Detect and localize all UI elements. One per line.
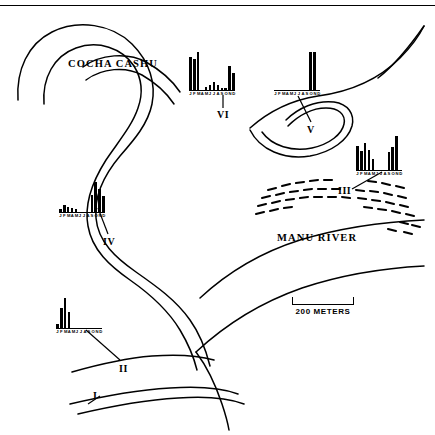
axis-tick-label: M — [67, 213, 70, 218]
axis-tick-label: A — [84, 329, 87, 334]
axis-tick-label: J — [83, 213, 86, 218]
axis-tick-label: S — [88, 329, 91, 334]
axis-tick-label: J — [376, 171, 379, 176]
phenology-chart-iv: JFMAMJJASOND — [59, 182, 105, 218]
bar — [313, 52, 316, 90]
bar — [63, 205, 66, 212]
axis-tick-label: J — [189, 91, 192, 96]
axis-tick-label: M — [205, 91, 208, 96]
axis-tick-label: J — [56, 329, 59, 334]
axis-tick-label: O — [224, 91, 227, 96]
bar — [221, 88, 224, 90]
bar — [98, 189, 101, 212]
axis-tick-label: D — [232, 91, 235, 96]
axis-tick-label: J — [209, 91, 212, 96]
chart-vi-plot — [189, 52, 235, 91]
axis-tick-label: S — [91, 213, 94, 218]
scale-bar-rule — [292, 297, 354, 305]
chart-vi-axis-labels: JFMAMJJASOND — [189, 91, 235, 96]
axis-tick-label: N — [98, 213, 101, 218]
chart-iv-plot — [59, 182, 105, 213]
axis-tick-label: A — [302, 91, 305, 96]
axis-tick-label: N — [95, 329, 98, 334]
chart-v-axis-labels: JFMAMJJASOND — [274, 91, 320, 96]
leader-line-ii — [86, 330, 120, 360]
axis-tick-label: A — [217, 91, 220, 96]
axis-tick-label: F — [278, 91, 281, 96]
axis-tick-label: M — [197, 91, 200, 96]
cocha-cashu-neck-inner — [86, 69, 174, 104]
axis-tick-label: M — [364, 171, 367, 176]
phenology-chart-v: JFMAMJJASOND — [274, 52, 320, 96]
bar — [217, 85, 220, 90]
bar — [56, 324, 59, 328]
site-label-iv: IV — [103, 236, 115, 247]
bar — [102, 196, 105, 213]
upper-channel-lagoon-inner — [262, 108, 344, 149]
bar — [309, 52, 312, 90]
chart-iv-axis-labels: JFMAMJJASOND — [59, 213, 105, 218]
axis-tick-label: A — [71, 213, 74, 218]
bar — [197, 52, 200, 90]
axis-tick-label: A — [384, 171, 387, 176]
bar — [224, 88, 227, 90]
site-label-v: V — [307, 124, 315, 135]
axis-tick-label: M — [64, 329, 67, 334]
scale-bar: 200 METERS — [292, 297, 354, 316]
bar — [213, 82, 216, 90]
map-label-cocha-cashu: COCHA CASHU — [68, 58, 158, 69]
bar — [391, 147, 394, 170]
cocha-cashu-lake-outline — [18, 25, 210, 366]
bar — [372, 159, 375, 170]
bar — [60, 308, 63, 328]
axis-tick-label: D — [317, 91, 320, 96]
bar — [64, 298, 67, 328]
chart-v-plot — [274, 52, 320, 91]
bar — [71, 208, 74, 212]
axis-tick-label: J — [298, 91, 301, 96]
map-label-manu-river: MANU RIVER — [277, 232, 357, 243]
axis-tick-label: A — [368, 171, 371, 176]
phenology-chart-vi: JFMAMJJASOND — [189, 52, 235, 96]
phenology-chart-iii: JFMAMJJASOND — [356, 136, 402, 176]
axis-tick-label: A — [68, 329, 71, 334]
bar — [59, 209, 62, 212]
axis-tick-label: O — [94, 213, 97, 218]
axis-tick-label: O — [391, 171, 394, 176]
axis-tick-label: M — [72, 329, 75, 334]
phenology-chart-ii: JFMAMJJASOND — [56, 298, 102, 334]
axis-tick-label: F — [63, 213, 66, 218]
axis-tick-label: J — [80, 329, 83, 334]
chart-iii-axis-labels: JFMAMJJASOND — [356, 171, 402, 176]
site-label-ii: II — [119, 363, 128, 374]
axis-tick-label: M — [372, 171, 375, 176]
axis-tick-label: F — [193, 91, 196, 96]
bar — [209, 85, 212, 90]
axis-tick-label: D — [102, 213, 105, 218]
axis-tick-label: N — [395, 171, 398, 176]
axis-tick-label: O — [91, 329, 94, 334]
axis-tick-label: D — [99, 329, 102, 334]
bar — [388, 152, 391, 170]
axis-tick-label: N — [313, 91, 316, 96]
chart-iii-plot — [356, 136, 402, 171]
bar — [395, 136, 398, 170]
axis-tick-label: S — [306, 91, 309, 96]
bar — [67, 207, 70, 212]
axis-tick-label: A — [201, 91, 204, 96]
scale-bar-label: 200 METERS — [292, 307, 354, 316]
axis-tick-label: F — [360, 171, 363, 176]
axis-tick-label: J — [380, 171, 383, 176]
axis-tick-label: S — [388, 171, 391, 176]
figure-canvas: COCHA CASHU MANU RIVER I II III IV V VI … — [0, 0, 435, 435]
axis-tick-label: M — [282, 91, 285, 96]
bar — [360, 151, 363, 170]
site-label-iii: III — [338, 185, 351, 196]
axis-tick-label: A — [286, 91, 289, 96]
bar — [228, 66, 231, 90]
bar — [193, 59, 196, 90]
axis-tick-label: S — [221, 91, 224, 96]
bar — [205, 87, 208, 90]
axis-tick-label: D — [399, 171, 402, 176]
axis-tick-label: J — [79, 213, 82, 218]
